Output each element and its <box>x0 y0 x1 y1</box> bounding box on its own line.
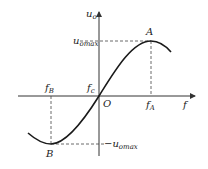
f-b-label: fB <box>44 82 54 95</box>
u-omax-label: uomax <box>73 35 98 48</box>
f-c-label: fc <box>86 82 95 95</box>
point-a-label: A <box>145 26 153 37</box>
origin-label: O <box>103 98 111 109</box>
frequency-response-diagram: uo uomax A fB fc O fA f B −uomax <box>0 0 208 169</box>
neg-u-omax-label: −uomax <box>104 138 138 151</box>
point-b-label: B <box>45 148 53 159</box>
y-axis-label: uo <box>86 8 97 21</box>
f-a-label: fA <box>145 99 155 112</box>
x-axis-label: f <box>182 99 189 110</box>
